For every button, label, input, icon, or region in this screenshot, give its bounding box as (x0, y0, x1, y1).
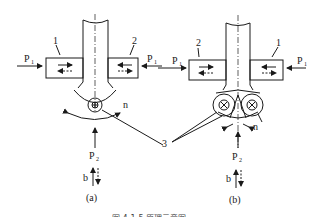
part-label-2-b: 2 (196, 37, 201, 48)
motion-label-a: b (83, 172, 88, 183)
block-2-b (189, 48, 226, 80)
force-sub-left-b: 1 (179, 61, 182, 67)
bottom-force-sub-a: 2 (96, 156, 99, 162)
roller-a (68, 90, 163, 145)
bottom-force-sub-b: 2 (239, 157, 242, 163)
block-1-a (46, 45, 83, 78)
force-label-right-a: P (147, 53, 153, 64)
rotation-label-a: n (123, 99, 128, 110)
bottom-force-label-b: P (232, 151, 238, 162)
motion-label-b: b (226, 173, 231, 184)
mechanism-diagram: 1 2 P 1 P 1 n P 2 b (a) 3 (0, 0, 318, 217)
force-sub-right-b: 1 (304, 61, 307, 67)
part-label-1-a: 1 (53, 35, 58, 46)
panel-label-a: (a) (86, 192, 97, 204)
part-label-1-b: 1 (276, 37, 281, 48)
part-label-3: 3 (162, 138, 167, 149)
rollers-b (172, 90, 263, 142)
force-label-left-b: P (172, 55, 178, 66)
panel-b: 2 1 P 1 P 1 n P 2 b (b) (158, 15, 307, 206)
shaft-b (223, 15, 253, 148)
force-sub-right-a: 1 (154, 59, 157, 65)
panel-label-b: (b) (229, 194, 241, 206)
part-label-2-a: 2 (132, 35, 137, 46)
block-1-b (250, 47, 283, 80)
block-2-a (108, 45, 138, 78)
panel-a: 1 2 P 1 P 1 n P 2 b (a) (17, 14, 163, 204)
force-label-right-b: P (297, 55, 303, 66)
bottom-force-label-a: P (89, 150, 95, 161)
rotation-label-b: n (253, 121, 258, 132)
force-sub-left-a: 1 (31, 59, 34, 65)
figure-caption: 图 4-1-5 原理示意图 (112, 213, 186, 217)
force-label-left-a: P (24, 53, 30, 64)
